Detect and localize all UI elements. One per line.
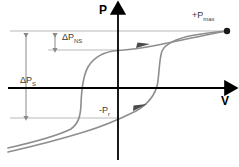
delta-ps-label-prefix: ΔP	[20, 75, 32, 85]
hysteresis-figure: P V +Pmax -Pr ΔPNS ΔPS	[0, 0, 239, 167]
y-axis-label: P	[99, 4, 107, 16]
pmax-endpoint-dot	[224, 28, 230, 34]
direction-arrow-lower	[133, 104, 147, 111]
pmax-label-prefix: +P	[192, 10, 203, 20]
pr-label-prefix: -P	[99, 105, 108, 115]
direction-arrowheads	[133, 43, 150, 112]
delta-pns-label: ΔPNS	[62, 33, 82, 45]
x-axis-label: V	[221, 95, 229, 107]
pr-label-subscript: r	[108, 111, 110, 117]
pmax-label: +Pmax	[192, 11, 214, 23]
delta-pns-label-prefix: ΔP	[62, 32, 74, 42]
pmax-label-subscript: max	[203, 16, 214, 22]
delta-ps-label: ΔPS	[20, 76, 36, 88]
pr-label: -Pr	[99, 106, 110, 118]
delta-ps-label-subscript: S	[32, 81, 36, 87]
delta-pns-label-subscript: NS	[74, 38, 82, 44]
